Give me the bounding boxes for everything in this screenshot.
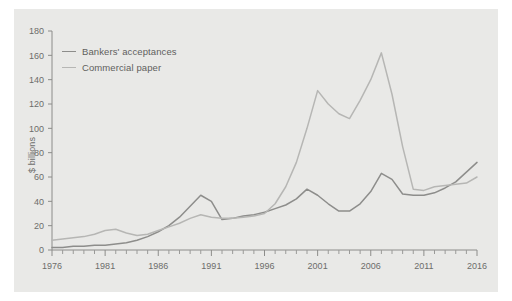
chart-figure: 020406080100120140160180 197619811986199… [0, 0, 512, 301]
x-axis: 197619811986199119962001200620112016 [42, 250, 487, 271]
x-tick-label: 2016 [467, 261, 487, 271]
series-line-bankers-acceptances [52, 162, 477, 247]
legend-label-bankers-acceptances: Bankers' acceptances [82, 46, 177, 57]
x-tick-label: 2006 [361, 261, 381, 271]
x-tick-label: 1976 [42, 261, 62, 271]
y-tick-label: 120 [29, 99, 44, 109]
chart-legend: Bankers' acceptances Commercial paper [62, 43, 177, 75]
y-axis-title: $ billions [27, 110, 37, 200]
y-tick-label: 180 [29, 26, 44, 36]
x-tick-label: 2011 [414, 261, 433, 271]
legend-swatch-commercial-paper [62, 67, 76, 68]
legend-swatch-bankers-acceptances [62, 51, 76, 52]
y-tick-label: 140 [29, 75, 44, 85]
legend-item-bankers-acceptances: Bankers' acceptances [62, 43, 177, 59]
series-lines [52, 53, 477, 248]
legend-item-commercial-paper: Commercial paper [62, 59, 177, 75]
y-tick-label: 160 [29, 51, 44, 61]
y-tick-label: 0 [39, 245, 44, 255]
x-tick-label: 2001 [308, 261, 328, 271]
x-tick-label: 1986 [148, 261, 168, 271]
legend-label-commercial-paper: Commercial paper [82, 62, 161, 73]
x-tick-label: 1991 [201, 261, 221, 271]
x-tick-label: 1981 [95, 261, 115, 271]
y-tick-label: 20 [34, 221, 44, 231]
x-tick-label: 1996 [254, 261, 274, 271]
